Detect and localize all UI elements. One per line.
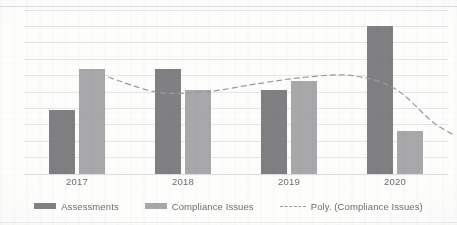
chart-top-rule [0, 6, 457, 7]
legend-item-poly-trendline[interactable]: Poly. (Compliance Issues) [280, 201, 423, 212]
chart-container: 2017201820192020 Assessments Compliance … [0, 0, 457, 225]
x-axis-tick-2017: 2017 [47, 176, 107, 187]
polynomial-trendline [109, 75, 454, 135]
category-axis: 2017201820192020 [24, 176, 448, 192]
legend-item-label: Poly. (Compliance Issues) [311, 201, 423, 212]
legend-swatch-icon [145, 203, 167, 209]
legend-item-label: Compliance Issues [172, 201, 254, 212]
legend-swatch-icon [34, 203, 56, 209]
chart-legend: Assessments Compliance Issues Poly. (Com… [0, 198, 457, 214]
chart-bottom-rule [0, 222, 457, 223]
trendline-svg [24, 10, 448, 174]
x-axis-tick-2020: 2020 [365, 176, 425, 187]
legend-item-assessments[interactable]: Assessments [34, 201, 119, 212]
plot-area [24, 10, 448, 174]
legend-dashed-line-icon [280, 206, 306, 207]
x-axis-tick-2019: 2019 [259, 176, 319, 187]
legend-item-label: Assessments [61, 201, 119, 212]
legend-item-compliance-issues[interactable]: Compliance Issues [145, 201, 254, 212]
x-axis-tick-2018: 2018 [153, 176, 213, 187]
